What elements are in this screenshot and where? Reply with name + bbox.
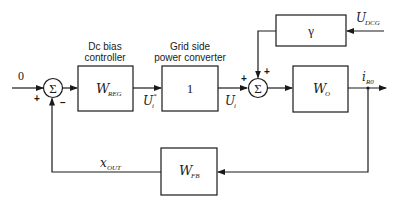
gamma-label: γ <box>307 23 314 38</box>
summing-junction-1: Σ <box>44 79 63 98</box>
summing-junction-2: Σ <box>249 79 268 98</box>
input-label: 0 <box>18 69 24 83</box>
wfb-subscript: FB <box>190 172 200 180</box>
xout-label: x <box>100 156 107 170</box>
sum2-left-plus-sign: + <box>241 73 247 84</box>
ui-star-subscript: i <box>152 102 154 110</box>
conv-caption-line2: power converter <box>154 52 226 63</box>
ui-star-superscript: * <box>153 92 157 100</box>
block-diagram: 0 Σ + − Dc bias controller W REG U i * G… <box>0 0 400 205</box>
conv-caption-line1: Grid side <box>170 41 210 52</box>
reg-caption-line1: Dc bias <box>88 41 121 52</box>
converter-gain-label: 1 <box>187 81 194 96</box>
ui-subscript: i <box>234 102 236 110</box>
sum2-top-plus-sign: + <box>264 66 270 77</box>
ir0-subscript: R0 <box>365 78 374 86</box>
sigma-icon: Σ <box>254 81 262 96</box>
sum1-plus-sign: + <box>34 93 40 104</box>
xout-subscript: OUT <box>107 164 122 172</box>
udcg-subscript: DCG <box>364 19 380 27</box>
wreg-subscript: REG <box>107 90 122 98</box>
wo-subscript: O <box>325 90 330 98</box>
sum1-minus-sign: − <box>60 97 66 108</box>
reg-caption-line2: controller <box>84 52 126 63</box>
sigma-icon: Σ <box>49 81 57 96</box>
